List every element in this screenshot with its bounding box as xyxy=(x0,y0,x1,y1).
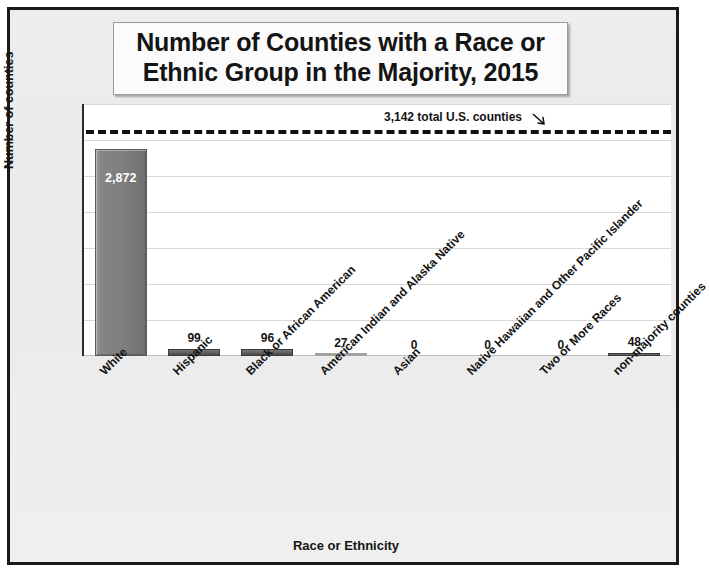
x-axis-title: Race or Ethnicity xyxy=(10,538,682,553)
title-line-1: Number of Counties with a Race or xyxy=(122,28,559,58)
bar-value-label: 2,872 xyxy=(81,171,161,185)
gridline xyxy=(84,104,671,105)
title-line-2: Ethnic Group in the Majority, 2015 xyxy=(122,58,559,88)
slide-frame: Number of Counties with a Race or Ethnic… xyxy=(7,7,679,565)
page-title: Number of Counties with a Race or Ethnic… xyxy=(113,22,568,95)
reference-line-label: 3,142 total U.S. counties xyxy=(384,110,522,124)
gridline xyxy=(84,284,671,285)
reference-line xyxy=(86,130,671,134)
y-axis-title: Number of counties xyxy=(2,52,16,169)
gridline xyxy=(84,140,671,141)
gridline xyxy=(84,212,671,213)
gridline xyxy=(84,176,671,177)
reference-line-arrow-icon xyxy=(532,113,546,127)
